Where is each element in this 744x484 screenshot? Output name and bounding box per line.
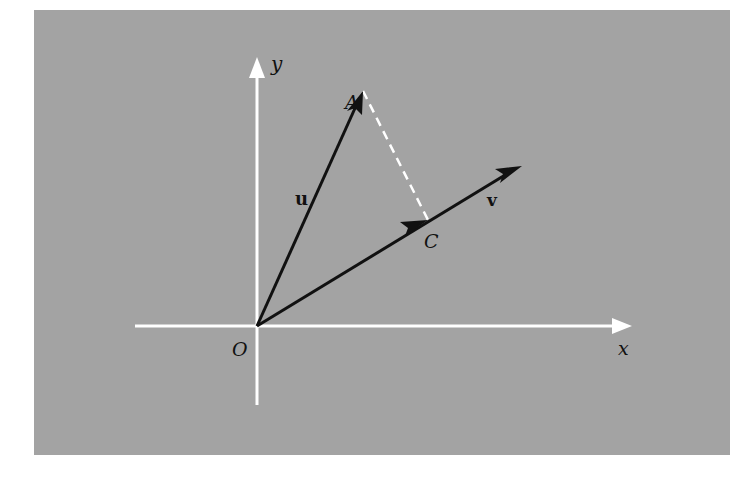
vector-v-label: v — [487, 192, 497, 209]
projection-line — [363, 91, 428, 220]
y-axis — [249, 57, 265, 405]
vector-v-arrowhead-icon — [495, 166, 522, 183]
vector-projection-diagram — [0, 0, 744, 484]
x-axis — [135, 318, 632, 334]
y-axis-label: y — [271, 54, 282, 74]
origin-label: O — [232, 340, 248, 359]
x-axis-arrow-icon — [612, 318, 632, 334]
point-c-label: C — [424, 232, 439, 251]
point-a-label: A — [345, 93, 359, 112]
vector-u-label: u — [295, 190, 308, 208]
y-axis-arrow-icon — [249, 57, 265, 78]
x-axis-label: x — [618, 339, 629, 358]
vector-u — [257, 91, 363, 326]
